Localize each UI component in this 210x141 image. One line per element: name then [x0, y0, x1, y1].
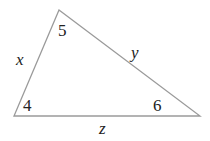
triangle [14, 10, 200, 116]
side-label-x: x [15, 50, 24, 69]
angle-label-bottom-left: 4 [23, 96, 32, 115]
triangle-diagram: 5 4 6 x y z [0, 0, 210, 141]
side-label-z: z [98, 119, 106, 138]
side-label-y: y [129, 43, 139, 62]
angle-label-bottom-right: 6 [153, 96, 162, 115]
angle-label-top: 5 [58, 21, 67, 40]
